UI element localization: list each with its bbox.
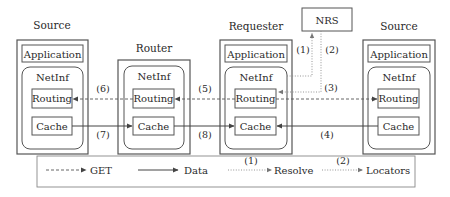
legend-locators-label: Locators [366, 165, 410, 176]
source-left-routing-label: Routing [32, 93, 73, 104]
step-3-label: (3) [324, 82, 337, 93]
requester-cache-label: Cache [240, 121, 272, 132]
source-right-application-label: Application [369, 49, 428, 60]
legend-resolve-label: Resolve [274, 165, 313, 176]
requester-node: Requester Application NetInf Routing Cac… [220, 20, 292, 154]
requester-routing-label: Routing [235, 93, 276, 104]
netinf-diagram: Source Application NetInf Routing Cache … [0, 0, 450, 197]
source-left-node: Source Application NetInf Routing Cache [17, 19, 88, 154]
source-right-routing-label: Routing [378, 93, 419, 104]
step-5-label: (5) [198, 83, 211, 94]
source-right-cache-label: Cache [383, 121, 415, 132]
source-left-title: Source [33, 19, 70, 31]
router-cache-label: Cache [138, 121, 170, 132]
legend: GET Data (1) Resolve (2) Locators [37, 155, 415, 187]
step-7-label: (7) [96, 129, 109, 140]
requester-netinf-label: NetInf [240, 72, 274, 83]
router-netinf-label: NetInf [138, 71, 172, 82]
nrs-label: NRS [315, 15, 338, 26]
step-1-label: (1) [296, 44, 309, 55]
source-right-node: Source Application NetInf Routing Cache [363, 20, 435, 154]
router-node: Router NetInf Routing Cache [118, 42, 190, 154]
source-right-netinf-label: NetInf [383, 72, 417, 83]
source-left-application-label: Application [23, 49, 82, 60]
legend-resolve-step: (1) [244, 155, 257, 166]
step-8-label: (8) [198, 129, 211, 140]
router-title: Router [136, 42, 173, 54]
step-4-label: (4) [320, 129, 333, 140]
legend-locators-step: (2) [336, 155, 349, 166]
step-2-label: (2) [325, 44, 338, 55]
legend-get-label: GET [90, 165, 112, 176]
router-routing-label: Routing [133, 93, 174, 104]
requester-application-label: Application [226, 49, 285, 60]
step-6-label: (6) [96, 83, 109, 94]
source-left-cache-label: Cache [36, 121, 68, 132]
requester-title: Requester [229, 20, 285, 32]
nrs-node: NRS [302, 8, 352, 31]
legend-data-label: Data [184, 165, 208, 176]
source-left-netinf-label: NetInf [36, 72, 70, 83]
source-right-title: Source [380, 20, 417, 32]
